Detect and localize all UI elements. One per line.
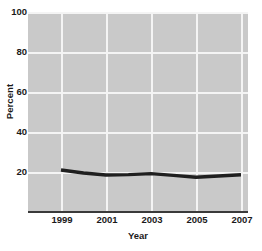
x-tick-label: 2003	[132, 214, 172, 225]
y-tick-label: 40	[1, 127, 27, 137]
x-tick-label: 1999	[42, 214, 82, 225]
y-tick-label: 100	[1, 7, 27, 17]
y-axis-tick-labels: 100 80 60 40 20	[0, 0, 27, 251]
x-tick-label: 2005	[177, 214, 217, 225]
x-tick-label: 2007	[222, 214, 262, 225]
line-chart: Percent 100 80 60 40 20 1999 2001 2003 2…	[0, 0, 262, 251]
x-tick-label: 2001	[87, 214, 127, 225]
y-tick-label: 80	[1, 47, 27, 57]
data-line-svg	[28, 12, 248, 211]
y-tick-label: 20	[1, 167, 27, 177]
x-axis-title: Year	[28, 230, 248, 241]
y-tick-label: 60	[1, 87, 27, 97]
plot-area	[28, 12, 248, 211]
data-series-line	[61, 170, 241, 177]
x-axis-line	[28, 211, 248, 213]
